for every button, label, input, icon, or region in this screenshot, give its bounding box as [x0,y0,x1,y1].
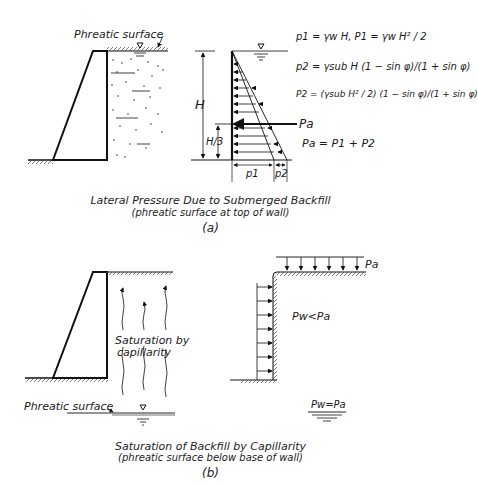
caption-a-subtitle: (phreatic surface at top of wall) [0,207,421,219]
pressure-arrows [234,64,282,152]
formula-p2: p2 = γsub H (1 − sin φ)/(1 + sin φ) [296,61,471,73]
p1-dimension-label: p1 [246,168,259,180]
panel-b-soil-pressure [230,257,366,421]
formula-P2: P2 = (γsub H² / 2) (1 − sin φ)/(1 + sin … [296,88,478,100]
top-load-pa-label: Pa [365,259,378,271]
pw-less-than-pa-label: Pw<Pa [292,311,330,323]
height-label: H [195,99,205,111]
caption-a-title: Lateral Pressure Due to Submerged Backfi… [0,195,421,207]
resultant-pa-label: Pa [299,118,314,130]
caption-a-tag: (a) [0,222,421,234]
h-third-label: H/3 [206,136,223,148]
formula-p1: p1 = γw H, P1 = γw H² / 2 [296,31,427,43]
caption-b-tag: (b) [0,467,421,479]
saturation-label-line2: capillarity [117,347,171,359]
caption-b-subtitle: (phreatic surface below base of wall) [0,452,421,464]
panel-a-backfill [107,36,168,158]
pw-equals-pa-label: Pw=Pa [311,399,346,411]
phreatic-surface-label-a: Phreatic surface [74,29,163,41]
panel-a-pressure-diagram [191,44,297,182]
panel-a-wall [28,51,107,164]
p2-dimension-label: p2 [275,168,288,180]
formula-pa-sum: Pa = P1 + P2 [302,138,375,150]
phreatic-surface-label-b: Phreatic surface [24,401,113,413]
panel-b-wall [25,272,173,382]
